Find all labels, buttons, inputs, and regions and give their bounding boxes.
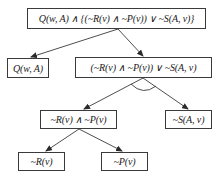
node-not-s: ~S(A, v) xyxy=(165,110,212,129)
and-or-tree-diagram: Q(w, A) ∧ {(~R(v) ∧ ~P(v)) ∨ ~S(A, v)} Q… xyxy=(0,0,218,182)
node-not-p: ~P(v) xyxy=(101,152,148,171)
edge-disjunction-to-not-s xyxy=(143,78,188,109)
node-root: Q(w, A) ∧ {(~R(v) ∧ ~P(v)) ∨ ~S(A, v)} xyxy=(27,8,206,29)
edge-root-to-disjunction xyxy=(118,29,143,56)
node-disjunction: (~R(v) ∧ ~P(v)) ∨ ~S(A, v) xyxy=(75,57,212,78)
edge-conjunction-to-not-p xyxy=(79,129,122,151)
edge-root-to-q xyxy=(31,29,118,57)
edge-conjunction-to-not-r xyxy=(46,129,79,151)
edge-disjunction-to-conjunction xyxy=(84,78,143,109)
or-arc xyxy=(131,84,156,91)
node-q-w-a: Q(w, A) xyxy=(7,58,49,78)
node-not-r: ~R(v) xyxy=(18,152,65,171)
node-conjunction: ~R(v) ∧ ~P(v) xyxy=(40,110,117,129)
